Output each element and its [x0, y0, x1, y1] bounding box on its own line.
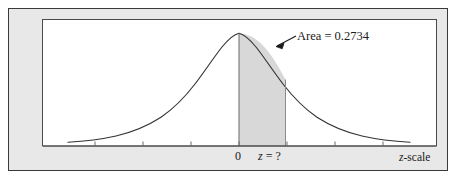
shaded-area-region: [239, 33, 286, 146]
x-tick-label-z-unknown: z = ?: [258, 150, 281, 162]
x-axis-title: z-scale: [399, 152, 430, 164]
plot-svg: [0, 0, 456, 179]
x-tick-label-zero: 0: [235, 150, 241, 162]
normal-distribution-figure: Area = 0.2734 0 z = ? z-scale: [0, 0, 456, 179]
z-equals-question: = ?: [263, 149, 281, 163]
x-axis-ticks: [95, 142, 383, 147]
area-annotation-label: Area = 0.2734: [297, 30, 369, 43]
z-scale-suffix: -scale: [403, 151, 430, 163]
annotation-leader-line: [276, 36, 296, 49]
